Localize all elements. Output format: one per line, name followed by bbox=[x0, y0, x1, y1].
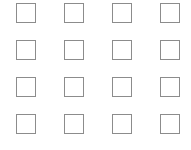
checkmark-icon bbox=[17, 4, 35, 22]
checkbox-r1c3[interactable] bbox=[112, 3, 132, 23]
checkbox-r2c4[interactable] bbox=[160, 40, 180, 60]
checkmark-icon bbox=[65, 78, 83, 96]
checkmark-icon bbox=[161, 4, 179, 22]
checkmark-icon bbox=[113, 41, 131, 59]
checkbox-r4c3[interactable] bbox=[112, 114, 132, 134]
checkmark-icon bbox=[161, 115, 179, 133]
checkbox-r4c2[interactable] bbox=[64, 114, 84, 134]
checkmark-icon bbox=[17, 78, 35, 96]
checkbox-r1c1[interactable] bbox=[16, 3, 36, 23]
checkmark-icon bbox=[161, 78, 179, 96]
checkbox-r1c4[interactable] bbox=[160, 3, 180, 23]
checkbox-r2c3[interactable] bbox=[112, 40, 132, 60]
checkmark-icon bbox=[113, 115, 131, 133]
checkmark-icon bbox=[17, 115, 35, 133]
checkmark-icon bbox=[113, 78, 131, 96]
checkbox-grid bbox=[0, 0, 191, 150]
checkbox-r3c3[interactable] bbox=[112, 77, 132, 97]
checkbox-r4c4[interactable] bbox=[160, 114, 180, 134]
checkbox-r1c2[interactable] bbox=[64, 3, 84, 23]
checkbox-r4c1[interactable] bbox=[16, 114, 36, 134]
checkbox-r3c2[interactable] bbox=[64, 77, 84, 97]
checkmark-icon bbox=[65, 4, 83, 22]
checkbox-r2c2[interactable] bbox=[64, 40, 84, 60]
checkmark-icon bbox=[65, 115, 83, 133]
checkbox-r3c4[interactable] bbox=[160, 77, 180, 97]
checkmark-icon bbox=[113, 4, 131, 22]
checkmark-icon bbox=[65, 41, 83, 59]
checkmark-icon bbox=[17, 41, 35, 59]
checkmark-icon bbox=[161, 41, 179, 59]
checkbox-r3c1[interactable] bbox=[16, 77, 36, 97]
checkbox-r2c1[interactable] bbox=[16, 40, 36, 60]
